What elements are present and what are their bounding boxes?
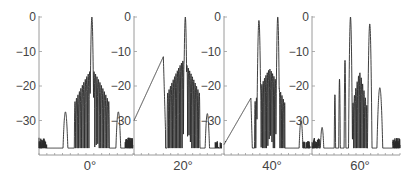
y-tick-label: −30 [201,114,222,128]
x-tick-label: 40° [262,158,282,173]
y-tick-label: −30 [16,114,37,128]
y-tick-label: −10 [289,45,310,59]
x-tick-label: 20° [173,158,193,173]
y-tick-label: 0 [29,10,36,24]
panel-steer-60: 0−10−20−3060° [289,10,400,173]
y-tick-label: −20 [16,79,37,93]
chart: 0−10−20−300°0−10−20−3020°0−10−20−3040°0−… [0,0,415,175]
panels: 0−10−20−300°0−10−20−3020°0−10−20−3040°0−… [16,10,400,173]
y-tick-label: 0 [302,10,309,24]
y-tick-label: −20 [111,79,132,93]
pattern-curve [312,17,400,148]
y-tick-label: −10 [111,45,132,59]
y-tick-label: −30 [289,114,310,128]
y-tick-label: −10 [16,45,37,59]
x-tick-label: 0° [84,158,96,173]
y-tick-label: 0 [124,10,131,24]
y-tick-label: −20 [201,79,222,93]
y-tick-label: −10 [201,45,222,59]
x-tick-label: 60° [350,158,370,173]
y-tick-label: −30 [111,114,132,128]
y-tick-label: −20 [289,79,310,93]
y-tick-label: 0 [214,10,221,24]
